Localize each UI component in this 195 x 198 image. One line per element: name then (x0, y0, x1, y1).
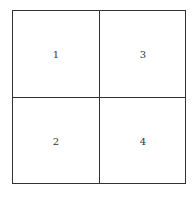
quadrant-grid: 1 2 3 4 (12, 10, 186, 184)
cell-label: 2 (53, 136, 59, 147)
cell-top-left: 1 (13, 11, 99, 97)
cell-label: 1 (53, 49, 59, 60)
cell-label: 4 (140, 136, 146, 147)
cell-top-right: 3 (100, 11, 186, 97)
cell-bottom-right: 4 (100, 98, 186, 184)
cell-label: 3 (140, 49, 146, 60)
cell-bottom-left: 2 (13, 98, 99, 184)
